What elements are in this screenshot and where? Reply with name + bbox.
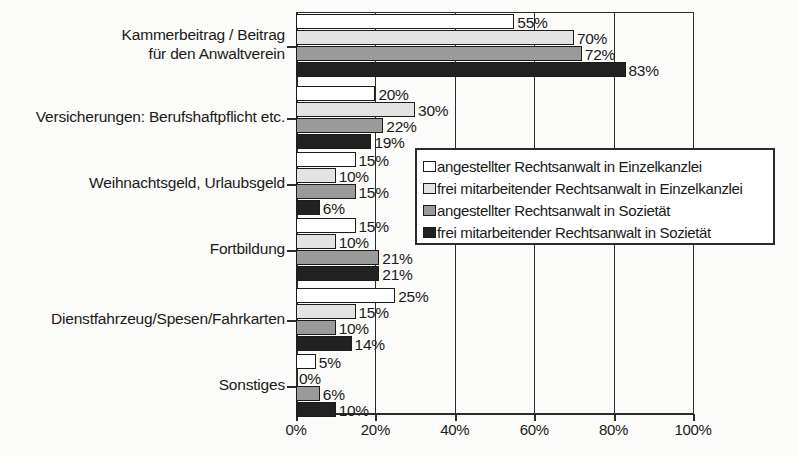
bar-value-label: 15% [359,305,389,320]
bar [296,118,383,133]
bar-value-label: 72% [585,47,615,62]
bar-value-label: 22% [386,119,416,134]
category-tick [287,184,296,186]
chart-legend: angestellter Rechtsanwalt in Einzelkanzl… [415,148,775,245]
bar [296,218,356,233]
category-label-line: Fortbildung [10,239,285,258]
bar-value-label: 20% [378,87,408,102]
x-axis-tick-label: 20% [361,421,390,438]
bar-value-label: 15% [359,219,389,234]
bar [296,134,371,149]
category-label-line: Weihnachtsgeld, Urlaubsgeld [10,173,285,192]
bar-value-label: 10% [339,321,369,336]
legend-item: angestellter Rechtsanwalt in Sozietät [423,199,773,221]
category-tick [287,250,296,252]
category-tick [287,46,296,48]
bar-value-label: 10% [339,235,369,250]
category-label: Kammerbeitrag / Beitragfür den Anwaltver… [10,25,285,63]
legend-label: frei mitarbeitender Rechtsanwalt in Einz… [437,181,743,196]
bar-value-label: 15% [359,153,389,168]
legend-item: frei mitarbeitender Rechtsanwalt in Sozi… [423,221,773,243]
category-label: Versicherungen: Berufshaftpflicht etc. [10,107,285,126]
bar [296,250,379,265]
bar-value-label: 19% [374,135,404,150]
bar-value-label: 83% [629,63,659,78]
category-label: Weihnachtsgeld, Urlaubsgeld [10,173,285,192]
bar [296,14,514,29]
x-axis-tick [534,414,536,421]
x-axis-tick-label: 100% [674,421,711,438]
category-label-line: Dienstfahrzeug/Spesen/Fahrkarten [10,309,285,328]
legend-swatch [423,161,436,172]
legend-label: angestellter Rechtsanwalt in Einzelkanzl… [437,159,702,174]
legend-swatch [423,183,436,194]
category-label: Fortbildung [10,239,285,258]
category-label: Sonstiges [10,375,285,394]
bar-value-label: 15% [359,185,389,200]
x-axis-tick [614,414,616,421]
bar-chart: 0%20%40%60%80%100%Kammerbeitrag / Beitra… [0,0,798,456]
legend-item: angestellter Rechtsanwalt in Einzelkanzl… [423,155,773,177]
bar [296,320,336,335]
category-tick [287,320,296,322]
x-axis-tick-label: 40% [440,421,469,438]
x-axis-tick-label: 80% [599,421,628,438]
bar [296,234,336,249]
bar-value-label: 6% [323,387,345,402]
x-axis-tick [455,414,457,421]
bar [296,152,356,167]
bar [296,86,375,101]
legend-item: frei mitarbeitender Rechtsanwalt in Einz… [423,177,773,199]
bar [296,184,356,199]
category-label-line: Sonstiges [10,375,285,394]
bar [296,168,336,183]
x-axis-tick [693,414,695,421]
category-label-line: Kammerbeitrag / Beitrag [10,25,285,44]
category-tick [287,386,296,388]
x-axis-tick-label: 60% [520,421,549,438]
bar [296,200,320,215]
bar-value-label: 21% [382,267,412,282]
bar-value-label: 10% [339,403,369,418]
bar [296,266,379,281]
bar-value-label: 6% [323,201,345,216]
bar [296,288,395,303]
bar-value-label: 70% [577,31,607,46]
category-tick [287,118,296,120]
category-label-line: für den Anwaltverein [10,44,285,63]
bar-value-label: 55% [517,15,547,30]
bar-value-label: 21% [382,251,412,266]
x-axis-tick [375,414,377,421]
bar-value-label: 30% [418,103,448,118]
legend-label: angestellter Rechtsanwalt in Sozietät [437,203,670,218]
bar [296,304,356,319]
legend-swatch [423,205,436,216]
bar-value-label: 0% [299,371,321,386]
bar [296,46,582,61]
bar-value-label: 5% [319,355,341,370]
bar [296,402,336,417]
bar-value-label: 10% [339,169,369,184]
x-axis-tick-label: 0% [285,421,306,438]
bar [296,354,316,369]
category-label-line: Versicherungen: Berufshaftpflicht etc. [10,107,285,126]
legend-swatch [423,227,436,238]
bar [296,336,352,351]
bar [296,386,320,401]
bar [296,102,415,117]
bar-value-label: 14% [355,337,385,352]
bar [296,62,626,77]
bar [296,30,574,45]
category-label: Dienstfahrzeug/Spesen/Fahrkarten [10,309,285,328]
legend-label: frei mitarbeitender Rechtsanwalt in Sozi… [437,225,711,240]
bar-value-label: 25% [398,289,428,304]
